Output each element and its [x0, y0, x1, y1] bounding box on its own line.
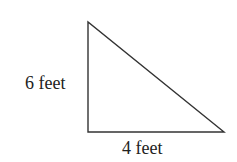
triangle-diagram: 6 feet 4 feet	[0, 0, 237, 162]
vertical-side-label: 6 feet	[25, 74, 65, 92]
right-triangle	[88, 22, 224, 132]
horizontal-side-label: 4 feet	[122, 139, 162, 157]
